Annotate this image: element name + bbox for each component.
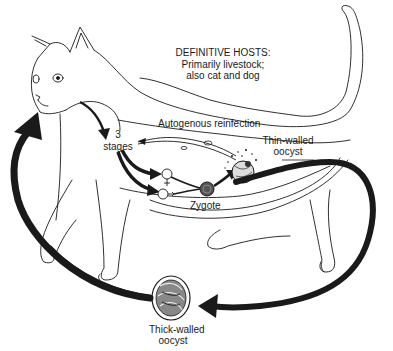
thick-walled-line2: oocyst xyxy=(149,335,197,346)
male-symbol-icon xyxy=(158,189,168,199)
head-outline xyxy=(31,58,66,114)
excretion-arrow xyxy=(210,162,373,308)
thin-walled-oocyst-label: Thin-walled oocyst xyxy=(258,135,318,157)
stages-count: 3 xyxy=(100,129,136,141)
zygote-icon xyxy=(200,182,214,196)
zygote-label: Zygote xyxy=(190,200,221,211)
definitive-hosts-label: DEFINITIVE HOSTS: Primarily livestock; a… xyxy=(168,47,278,82)
definitive-hosts-line2: also cat and dog xyxy=(168,70,278,82)
left-ear-outline xyxy=(32,36,50,58)
thin-walled-line2: oocyst xyxy=(258,146,318,157)
female-symbol-icon xyxy=(162,169,172,179)
definitive-hosts-title: DEFINITIVE HOSTS: xyxy=(168,47,278,59)
thick-walled-oocyst-label: Thick-walled oocyst xyxy=(149,324,197,346)
right-ear-outline xyxy=(70,27,94,52)
thick-walled-line1: Thick-walled xyxy=(149,324,197,335)
thick-walled-oocyst-icon xyxy=(152,276,190,320)
stages-word: stages xyxy=(100,141,136,153)
definitive-hosts-line1: Primarily livestock; xyxy=(168,59,278,71)
return-to-host-arrow xyxy=(14,132,150,298)
thin-walled-line1: Thin-walled xyxy=(258,135,318,146)
arrow-up-icon xyxy=(14,112,42,140)
ingestion-arrow xyxy=(80,102,104,132)
autogenous-reinfection-label: Autogenous reinfection xyxy=(158,118,260,129)
life-cycle-diagram: DEFINITIVE HOSTS: Primarily livestock; a… xyxy=(0,0,393,351)
stages-label: 3 stages xyxy=(100,129,136,153)
ingestion-return-line xyxy=(50,246,150,296)
arrow-left-icon xyxy=(198,294,218,318)
